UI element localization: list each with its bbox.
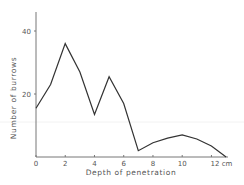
x-tick-label: 8 <box>151 160 155 168</box>
y-ticks: 2040 <box>22 28 36 99</box>
data-line <box>36 44 226 157</box>
x-tick-label: 0 <box>34 160 38 168</box>
x-tick-label: 2 <box>63 160 67 168</box>
x-tick-label: 10 <box>178 160 187 168</box>
y-tick-label: 20 <box>22 91 31 99</box>
x-tick-label: 4 <box>92 160 97 168</box>
x-axis-label: Depth of penetration <box>86 168 177 177</box>
x-tick-label: 6 <box>121 160 126 168</box>
x-tick-label: 12 cm <box>211 160 233 168</box>
y-tick-label: 40 <box>22 28 31 36</box>
y-axis-label: Number of burrows <box>9 57 18 139</box>
line-chart: 2040 024681012 cm Depth of penetration N… <box>0 0 244 185</box>
